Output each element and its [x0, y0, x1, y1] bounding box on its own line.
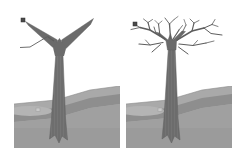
figure-svg: [0, 0, 243, 160]
figure-canvas: [0, 0, 243, 160]
left-branch-tip-marker[interactable]: [21, 18, 25, 22]
right-branch-tip-marker[interactable]: [133, 22, 137, 26]
right-ground-marker[interactable]: [158, 108, 162, 112]
left-ground-marker[interactable]: [36, 108, 40, 112]
left-water-pool: [8, 106, 52, 116]
right-water-pool: [120, 106, 164, 116]
